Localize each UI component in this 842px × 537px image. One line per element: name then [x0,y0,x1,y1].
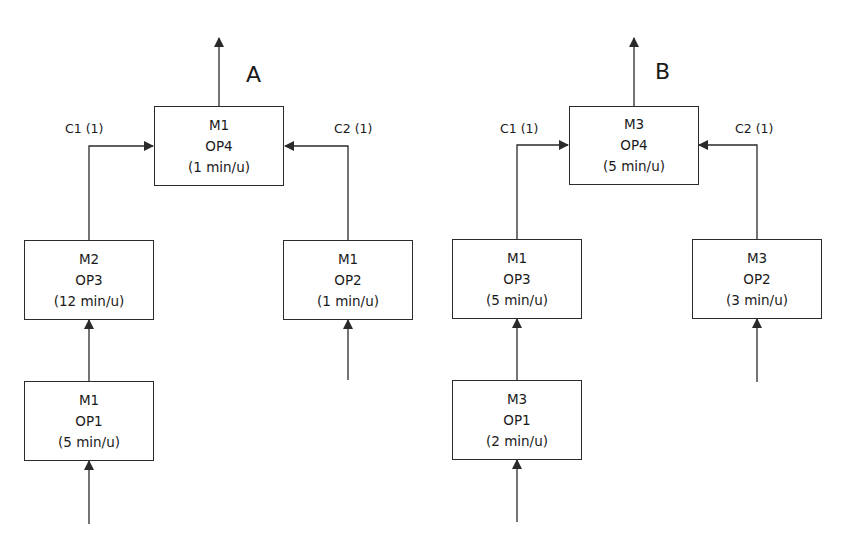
operation-label: OP1 [75,411,102,432]
operation-label: OP2 [334,270,361,291]
time-label: (5 min/u) [486,290,548,311]
diagram-a-op2-box: M1 OP2 (1 min/u) [283,240,413,320]
operation-label: OP3 [75,270,102,291]
diagram-b-op2-box: M3 OP2 (3 min/u) [692,239,822,319]
diagram-a-op4-box: M1 OP4 (1 min/u) [154,106,284,186]
time-label: (12 min/u) [54,291,125,312]
machine-label: M1 [79,390,99,411]
diagram-b-op3-box: M1 OP3 (5 min/u) [452,239,582,319]
diagram-a-op1-box: M1 OP1 (5 min/u) [24,381,154,461]
time-label: (5 min/u) [603,156,665,177]
diagram-b-c1-label: C1 (1) [500,121,538,136]
diagram-a-label: A [246,62,261,87]
time-label: (3 min/u) [726,290,788,311]
diagram-b-op4-box: M3 OP4 (5 min/u) [569,106,699,185]
machine-label: M1 [338,249,358,270]
diagram-b-label: B [655,59,670,84]
machine-label: M3 [624,114,644,135]
machine-label: M1 [507,248,527,269]
operation-label: OP4 [620,135,647,156]
diagram-b-c2-label: C2 (1) [735,121,773,136]
operation-label: OP4 [205,136,232,157]
time-label: (5 min/u) [58,432,120,453]
machine-label: M1 [209,115,229,136]
time-label: (1 min/u) [317,291,379,312]
machine-label: M3 [507,389,527,410]
operation-label: OP3 [503,269,530,290]
time-label: (1 min/u) [188,157,250,178]
machine-label: M2 [79,249,99,270]
diagram-a-c1-label: C1 (1) [65,121,103,136]
diagram-a-c2-label: C2 (1) [334,121,372,136]
diagram-b-op1-box: M3 OP1 (2 min/u) [452,380,582,460]
diagram-a-op3-box: M2 OP3 (12 min/u) [24,240,154,320]
operation-label: OP1 [503,410,530,431]
machine-label: M3 [747,248,767,269]
time-label: (2 min/u) [486,431,548,452]
operation-label: OP2 [743,269,770,290]
